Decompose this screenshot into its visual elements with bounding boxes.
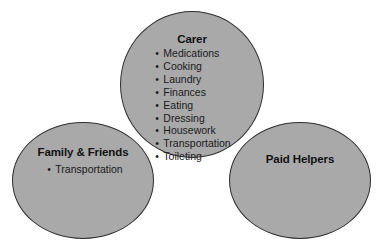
bubble-carer-heading: Carer: [121, 32, 263, 46]
bullet-icon: •: [155, 86, 159, 99]
bullet-icon: •: [47, 163, 51, 176]
bullet-icon: •: [155, 60, 159, 73]
bullet-icon: •: [155, 47, 159, 60]
diagram-canvas: Family & Friends •Transportation Paid He…: [0, 0, 380, 246]
bullet-icon: •: [155, 124, 159, 137]
list-item-label: Transportation: [163, 137, 230, 149]
list-item-label: Medications: [163, 47, 219, 59]
bullet-icon: •: [155, 150, 159, 163]
list-item: •Finances: [155, 86, 230, 99]
list-item: •Cooking: [155, 60, 230, 73]
bullet-icon: •: [155, 73, 159, 86]
list-item: •Transportation: [155, 137, 230, 150]
bubble-carer-content: Carer •Medications •Cooking •Laundry •Fi…: [121, 32, 263, 164]
list-item: •Eating: [155, 99, 230, 112]
list-item-label: Eating: [163, 99, 193, 111]
bubble-carer-list: •Medications •Cooking •Laundry •Finances…: [155, 47, 230, 163]
list-item-label: Laundry: [163, 73, 201, 85]
list-item-label: Housework: [163, 124, 216, 136]
list-item: •Toileting: [155, 150, 230, 163]
bullet-icon: •: [155, 99, 159, 112]
list-item-label: Finances: [163, 86, 206, 98]
list-item: •Transportation: [47, 163, 122, 176]
list-item: •Dressing: [155, 112, 230, 125]
list-item: •Laundry: [155, 73, 230, 86]
list-item: •Housework: [155, 124, 230, 137]
bullet-icon: •: [155, 112, 159, 125]
bubble-family-and-friends-list: •Transportation: [47, 163, 122, 176]
bubble-carer[interactable]: Carer •Medications •Cooking •Laundry •Fi…: [120, 11, 264, 158]
bullet-icon: •: [155, 137, 159, 150]
list-item-label: Toileting: [163, 150, 202, 162]
list-item-label: Transportation: [55, 163, 122, 175]
list-item-label: Cooking: [163, 60, 202, 72]
list-item: •Medications: [155, 47, 230, 60]
list-item-label: Dressing: [163, 112, 204, 124]
